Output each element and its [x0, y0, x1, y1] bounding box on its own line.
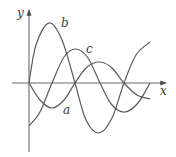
curve-b	[29, 23, 150, 133]
curve-c-label: c	[86, 42, 93, 56]
x-axis-label: x	[160, 84, 167, 98]
curve-a	[29, 62, 150, 108]
y-axis-label: y	[16, 6, 24, 20]
curve-c	[29, 49, 150, 126]
curve-a-label: a	[63, 103, 70, 117]
function-graph: x y a b c	[0, 0, 176, 157]
curve-b-label: b	[61, 16, 69, 30]
